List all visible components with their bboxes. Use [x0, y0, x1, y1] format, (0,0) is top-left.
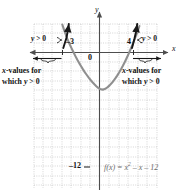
left-interval-caption: x-values for which y > 0	[2, 66, 41, 87]
left-caption-line-1: x-values for	[2, 66, 41, 77]
equation-main: f(x) = x	[104, 163, 128, 172]
right-caption-line-2: which y > 0	[122, 77, 161, 88]
parabola-figure: y x 0 –3 4 –12 y > 0 y > 0 x-values for …	[0, 0, 194, 192]
left-positive-label: y > 0	[31, 35, 46, 43]
equation-tail: – x – 12	[131, 163, 159, 172]
left-caption-line-2: which y > 0	[2, 77, 41, 88]
left-root-label: –3	[66, 38, 74, 46]
x-axis-label: x	[172, 45, 176, 53]
right-positive-label: y > 0	[142, 35, 157, 43]
left-ygt-brace	[57, 38, 62, 43]
origin-label: 0	[88, 54, 92, 62]
right-interval-brace	[139, 59, 152, 63]
function-equation-label: f(x) = x2 – x – 12	[104, 162, 158, 172]
right-interval-caption: x-values for which y > 0	[122, 66, 161, 87]
right-caption-line-1: x-values for	[122, 66, 161, 77]
right-root-label: 4	[127, 38, 131, 46]
graph-canvas	[0, 0, 194, 192]
vertex-value-label: –12	[69, 162, 81, 170]
y-axis-label: y	[95, 6, 99, 14]
